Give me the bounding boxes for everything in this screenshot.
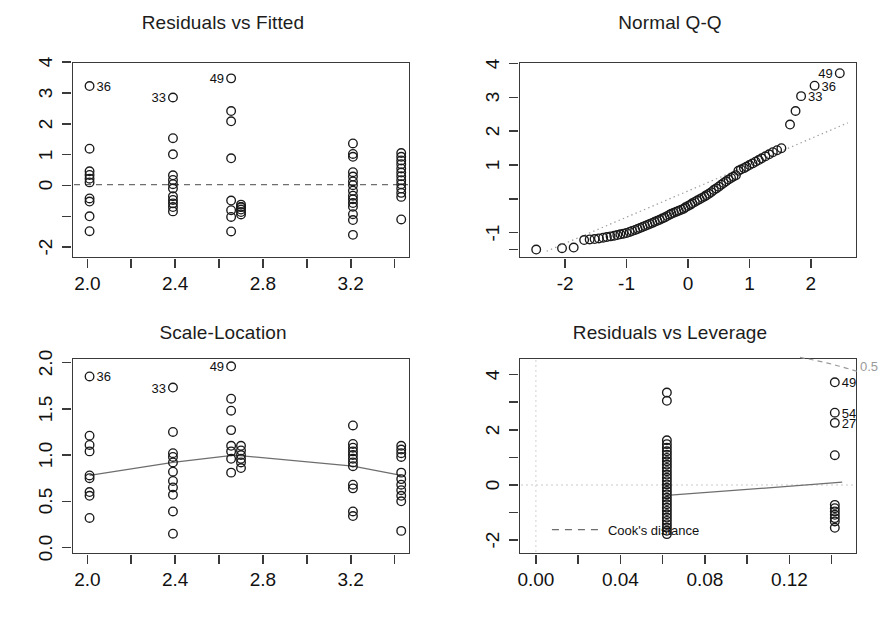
point-label: 33 [151,90,165,105]
y-axis-tick-label: 4 [482,369,504,380]
y-axis-tick [62,92,71,94]
point-label: 33 [151,380,165,395]
x-axis-tick-label: 2.4 [162,569,188,591]
trend-line [667,482,842,495]
x-axis-tick [564,259,566,268]
y-axis-tick [62,454,71,456]
y-axis-tick [509,232,518,234]
x-axis-tick [662,555,664,564]
data-point [85,431,94,440]
x-axis-tick [704,555,706,564]
y-axis-tick-label: 3 [482,92,504,103]
x-axis-tick [350,259,352,268]
data-point [169,428,178,437]
x-axis-tick-label: 3.2 [338,569,364,591]
x-axis-tick [350,555,352,564]
data-point [397,497,406,506]
data-point [831,408,840,417]
y-axis-tick [62,501,71,503]
x-axis-tick [87,555,89,564]
data-point [227,117,236,126]
y-axis-tick-label: 2 [482,424,504,435]
y-axis-tick [509,374,518,376]
data-point [791,107,800,116]
point-label: 36 [822,78,836,93]
data-point [663,396,672,405]
x-axis-tick-label: 2 [806,273,817,295]
data-point [227,468,236,477]
point-label: 49 [210,71,224,86]
y-axis-tick [509,484,518,486]
plot-canvas [447,0,893,314]
panel-scale-location: Scale-Location 3633492.02.42.83.20.00.51… [0,314,446,628]
panel-residuals-vs-leverage: Residuals vs Leverage Cook's distance495… [447,314,893,628]
y-axis-tick-label: 2 [35,118,57,129]
y-axis-tick [62,61,71,63]
data-point [227,394,236,403]
x-axis-tick [831,555,833,564]
y-axis-tick [62,408,71,410]
cooks-distance-contour [800,357,857,371]
y-axis-tick [62,154,71,156]
y-axis-tick-label: 0 [35,180,57,191]
data-point [85,227,94,236]
y-axis-tick [62,246,71,248]
panel-residuals-vs-fitted: Residuals vs Fitted 3633492.02.42.83.2-2… [0,0,446,314]
data-point [169,93,178,102]
y-axis-tick [509,198,518,200]
data-point [835,69,844,78]
y-axis-tick [509,401,518,403]
data-point [85,372,94,381]
plot-canvas [447,314,893,628]
y-axis-tick-label: -2 [482,532,504,549]
data-point [227,426,236,435]
data-point [227,74,236,83]
data-point [558,244,567,253]
qq-reference-line [547,123,848,251]
y-axis-tick [62,185,71,187]
y-axis-tick [509,512,518,514]
x-axis-tick-label: 0 [683,273,694,295]
x-axis-tick [174,555,176,564]
x-axis-tick-label: -1 [618,273,635,295]
point-label: 36 [97,79,111,94]
data-point [397,527,406,536]
cooks-distance-legend-label: Cook's distance [608,522,699,537]
x-axis-tick [746,555,748,564]
data-point [85,447,94,456]
y-axis-tick [509,457,518,459]
data-point [85,514,94,523]
data-point [797,92,806,101]
y-axis-tick [509,164,518,166]
data-point [349,231,358,240]
x-axis-tick [626,259,628,268]
x-axis-tick [262,555,264,564]
data-point [237,464,246,473]
y-axis-tick-label: -1 [482,224,504,241]
y-axis-tick [62,123,71,125]
x-axis-tick [262,259,264,268]
x-axis-tick [394,555,396,564]
data-point [169,467,178,476]
data-point [169,150,178,159]
y-axis-tick-label: 3 [35,88,57,99]
x-axis-tick-label: 0.08 [686,569,723,591]
x-axis-tick [620,555,622,564]
data-point [227,406,236,415]
x-axis-tick [306,259,308,268]
data-point [227,196,236,205]
point-label: 27 [842,415,856,430]
x-axis-tick [749,259,751,268]
x-axis-tick [130,259,132,268]
x-axis-tick [535,555,537,564]
y-axis-tick-label: 0 [482,480,504,491]
y-axis-tick-label: 0.5 [35,488,57,514]
x-axis-tick-label: 2.8 [250,273,276,295]
data-point [831,378,840,387]
y-axis-tick [509,130,518,132]
data-point [532,245,541,254]
plot-canvas [0,0,446,314]
data-point [85,82,94,91]
y-axis-tick-label: 1.5 [35,396,57,422]
x-axis-tick-label: 0.04 [602,569,639,591]
